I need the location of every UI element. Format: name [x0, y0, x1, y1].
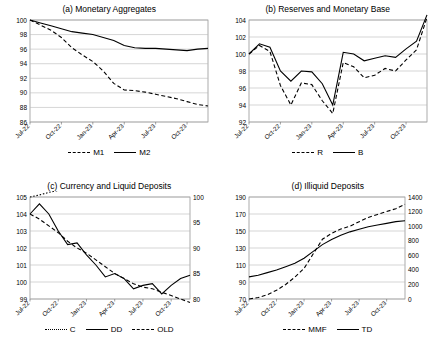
panel-b-legend: R B: [219, 148, 437, 157]
panel-monetary-aggregates: (a) Monetary Aggregates 8688909294969810…: [0, 0, 219, 177]
legend-swatch-m1: [68, 152, 90, 153]
svg-text:96: 96: [238, 85, 246, 92]
svg-text:Jan-23: Jan-23: [69, 299, 88, 318]
svg-text:96: 96: [20, 46, 28, 53]
panel-c-plot: 9910010110210310410580859095100Jul-22Oct…: [0, 191, 218, 321]
svg-text:98: 98: [238, 68, 246, 75]
svg-text:Jul-22: Jul-22: [14, 299, 31, 316]
legend-label-dd: DD: [111, 325, 123, 334]
svg-text:Jul-23: Jul-23: [127, 299, 144, 316]
svg-text:105: 105: [16, 194, 27, 201]
svg-text:Oct-22: Oct-22: [44, 122, 63, 141]
svg-text:1200: 1200: [408, 208, 423, 215]
svg-text:Apr-23: Apr-23: [107, 122, 126, 141]
svg-text:Apr-23: Apr-23: [325, 122, 344, 141]
panel-c-legend: C DD OLD: [0, 325, 219, 334]
panel-b-title: (b) Reserves and Monetary Base: [219, 4, 437, 14]
legend-item-dd: DD: [86, 325, 123, 334]
panel-d-legend: MMF TD: [219, 325, 437, 334]
svg-text:Jan-23: Jan-23: [293, 122, 312, 141]
panel-a-legend: M1 M2: [0, 148, 219, 157]
svg-text:85: 85: [193, 270, 201, 277]
legend-label-mmf: MMF: [308, 325, 326, 334]
legend-swatch-old: [132, 329, 154, 330]
legend-item-old: OLD: [132, 325, 173, 334]
svg-text:103: 103: [16, 228, 27, 235]
svg-text:98: 98: [20, 31, 28, 38]
panel-c-title: (c) Currency and Liquid Deposits: [0, 181, 219, 191]
svg-text:400: 400: [408, 266, 419, 273]
svg-text:104: 104: [16, 211, 27, 218]
svg-text:110: 110: [235, 262, 246, 269]
svg-text:Jan-23: Jan-23: [75, 122, 94, 141]
svg-text:100: 100: [235, 51, 246, 58]
legend-swatch-td: [337, 329, 359, 330]
legend-label-m1: M1: [93, 148, 104, 157]
svg-text:170: 170: [235, 211, 246, 218]
legend-swatch-m2: [114, 152, 136, 153]
panel-currency-liquid-deposits: (c) Currency and Liquid Deposits 9910010…: [0, 177, 219, 354]
svg-text:190: 190: [235, 194, 246, 201]
panel-d-plot: 7090110130150170190020040060080010001200…: [219, 191, 437, 321]
svg-text:88: 88: [20, 104, 28, 111]
svg-text:102: 102: [235, 34, 246, 41]
svg-text:800: 800: [408, 237, 419, 244]
svg-text:Apr-23: Apr-23: [313, 299, 332, 318]
legend-swatch-c: [45, 329, 67, 330]
legend-swatch-b: [333, 152, 355, 153]
svg-text:Oct-22: Oct-22: [258, 299, 277, 318]
legend-label-r: R: [317, 148, 323, 157]
svg-text:Jul-22: Jul-22: [14, 122, 31, 139]
svg-text:Oct-23: Oct-23: [154, 299, 173, 318]
svg-text:90: 90: [193, 245, 201, 252]
legend-label-m2: M2: [139, 148, 150, 157]
panel-d-title: (d) Illiquid Deposits: [219, 181, 437, 191]
legend-item-c: C: [45, 325, 76, 334]
svg-text:Oct-22: Oct-22: [41, 299, 60, 318]
svg-text:102: 102: [16, 245, 27, 252]
svg-text:100: 100: [16, 279, 27, 286]
legend-item-td: TD: [337, 325, 373, 334]
svg-text:80: 80: [193, 296, 201, 303]
svg-text:Oct-22: Oct-22: [262, 122, 281, 141]
chart-grid: (a) Monetary Aggregates 8688909294969810…: [0, 0, 437, 354]
panel-illiquid-deposits: (d) Illiquid Deposits 709011013015017019…: [219, 177, 437, 354]
svg-text:Jan-23: Jan-23: [286, 299, 305, 318]
svg-text:92: 92: [20, 75, 28, 82]
legend-swatch-mmf: [283, 329, 305, 330]
svg-text:Apr-23: Apr-23: [97, 299, 116, 318]
legend-item-r: R: [292, 148, 323, 157]
svg-text:94: 94: [20, 60, 28, 67]
svg-text:90: 90: [238, 279, 246, 286]
svg-text:100: 100: [16, 17, 27, 24]
svg-text:200: 200: [408, 281, 419, 288]
svg-text:600: 600: [408, 252, 419, 259]
svg-text:Oct-23: Oct-23: [388, 122, 407, 141]
legend-label-b: B: [358, 148, 363, 157]
legend-item-m2: M2: [114, 148, 150, 157]
svg-text:90: 90: [20, 89, 28, 96]
panel-a-plot: 86889092949698100Jul-22Oct-22Jan-23Apr-2…: [0, 14, 218, 144]
svg-text:Jul-23: Jul-23: [342, 299, 359, 316]
legend-label-c: C: [70, 325, 76, 334]
legend-item-mmf: MMF: [283, 325, 326, 334]
svg-text:150: 150: [235, 228, 246, 235]
svg-text:95: 95: [193, 219, 201, 226]
panel-a-title: (a) Monetary Aggregates: [0, 4, 219, 14]
svg-text:Jul-22: Jul-22: [232, 122, 249, 139]
svg-text:1400: 1400: [408, 194, 423, 201]
svg-text:130: 130: [235, 245, 246, 252]
svg-text:1000: 1000: [408, 223, 423, 230]
legend-item-m1: M1: [68, 148, 104, 157]
svg-text:Oct-23: Oct-23: [369, 299, 388, 318]
svg-text:0: 0: [408, 296, 412, 303]
svg-text:100: 100: [193, 194, 204, 201]
legend-swatch-dd: [86, 329, 108, 330]
legend-label-td: TD: [362, 325, 373, 334]
legend-swatch-r: [292, 152, 314, 153]
svg-text:Jul-22: Jul-22: [232, 299, 249, 316]
panel-b-plot: 92949698100102104Jul-22Oct-22Jan-23Apr-2…: [219, 14, 437, 144]
svg-text:Jul-23: Jul-23: [139, 122, 156, 139]
svg-text:104: 104: [235, 17, 246, 24]
svg-text:Jul-23: Jul-23: [358, 122, 375, 139]
